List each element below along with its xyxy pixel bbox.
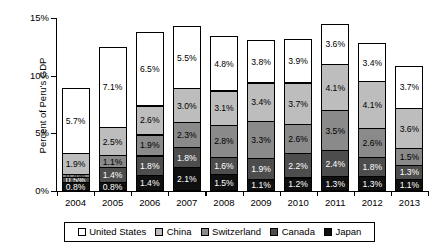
x-axis-tick-mark: [391, 191, 392, 196]
bar-2008[interactable]: 4.8%3.1%2.8%1.6%1.5%: [210, 36, 238, 190]
bar-value-label: 7.1%: [100, 83, 126, 92]
bar-value-label: 2.3%: [174, 131, 200, 140]
bar-2004[interactable]: 5.7%1.9%0.4%0.5%0.8%: [62, 88, 90, 190]
legend-item-ca[interactable]: Canada: [270, 227, 315, 237]
bar-segment-us-2012[interactable]: 3.4%: [358, 43, 386, 82]
bar-2011[interactable]: 3.6%4.1%3.5%2.4%1.3%: [321, 24, 349, 191]
legend-item-ch[interactable]: Switzerland: [201, 227, 262, 237]
bar-value-label: 5.5%: [174, 53, 200, 62]
y-axis-tick-label: 15%: [13, 13, 49, 23]
bar-value-label: 1.3%: [396, 168, 422, 177]
bar-value-label: 6.5%: [137, 65, 163, 74]
bar-segment-cn-2005[interactable]: 2.5%: [99, 127, 127, 156]
bar-value-label: 3.8%: [248, 57, 274, 66]
bar-segment-ca-2011[interactable]: 2.4%: [321, 150, 349, 178]
bar-segment-ch-2007[interactable]: 2.3%: [173, 122, 201, 148]
bar-segment-us-2004[interactable]: 5.7%: [62, 88, 90, 154]
bar-segment-ca-2007[interactable]: 1.8%: [173, 147, 201, 168]
legend-swatch-icon-jp: [324, 228, 332, 236]
bar-segment-ca-2006[interactable]: 1.8%: [136, 156, 164, 177]
bar-segment-ca-2012[interactable]: 1.8%: [358, 157, 386, 178]
bar-segment-ca-2008[interactable]: 1.6%: [210, 157, 238, 175]
bar-segment-ca-2010[interactable]: 2.2%: [284, 153, 312, 178]
y-axis-tick-label: 0%: [13, 186, 49, 196]
bar-segment-cn-2008[interactable]: 3.1%: [210, 91, 238, 127]
bar-2007[interactable]: 5.5%3.0%2.3%1.8%2.1%: [173, 26, 201, 191]
bar-segment-ca-2005[interactable]: 1.4%: [99, 167, 127, 183]
bar-segment-us-2007[interactable]: 5.5%: [173, 26, 201, 89]
bar-segment-jp-2009[interactable]: 1.1%: [247, 179, 275, 192]
bar-segment-ch-2008[interactable]: 2.8%: [210, 125, 238, 157]
bar-segment-jp-2013[interactable]: 1.1%: [395, 179, 423, 192]
x-axis-tick-mark: [205, 191, 206, 196]
bar-segment-jp-2011[interactable]: 1.3%: [321, 176, 349, 191]
bar-value-label: 1.1%: [248, 181, 274, 190]
y-axis-title: Percent of Peru's GDP: [37, 26, 48, 186]
bar-2010[interactable]: 3.9%3.7%2.6%2.2%1.2%: [284, 39, 312, 191]
bar-2006[interactable]: 6.5%2.6%1.9%1.8%1.4%: [136, 32, 164, 191]
x-axis-tick-mark: [280, 191, 281, 196]
bar-segment-ch-2006[interactable]: 1.9%: [136, 135, 164, 157]
bar-segment-cn-2013[interactable]: 3.6%: [395, 108, 423, 149]
legend-label: Switzerland: [212, 227, 261, 237]
x-axis-tick-mark: [94, 191, 95, 196]
bar-segment-us-2009[interactable]: 3.8%: [247, 40, 275, 84]
bar-segment-us-2013[interactable]: 3.7%: [395, 66, 423, 109]
bar-value-label: 2.6%: [359, 138, 385, 147]
bar-segment-us-2010[interactable]: 3.9%: [284, 39, 312, 84]
bar-segment-ch-2011[interactable]: 3.5%: [321, 110, 349, 150]
bar-value-label: 3.6%: [396, 124, 422, 133]
legend-swatch-icon-cn: [155, 228, 163, 236]
bar-value-label: 2.4%: [322, 159, 348, 168]
bar-value-label: 1.1%: [396, 181, 422, 190]
bar-segment-ca-2013[interactable]: 1.3%: [395, 165, 423, 180]
legend-swatch-icon-ch: [201, 228, 209, 236]
legend-item-us[interactable]: United States: [78, 227, 147, 237]
bar-segment-jp-2008[interactable]: 1.5%: [210, 174, 238, 191]
bar-segment-cn-2004[interactable]: 1.9%: [62, 153, 90, 175]
bar-segment-cn-2007[interactable]: 3.0%: [173, 88, 201, 123]
chart-legend: United StatesChinaSwitzerlandCanadaJapan: [64, 222, 375, 242]
bar-segment-cn-2011[interactable]: 4.1%: [321, 64, 349, 111]
bar-segment-ch-2012[interactable]: 2.6%: [358, 128, 386, 158]
bar-segment-ch-2005[interactable]: 1.1%: [99, 155, 127, 168]
legend-item-cn[interactable]: China: [155, 227, 191, 237]
bar-segment-us-2008[interactable]: 4.8%: [210, 36, 238, 91]
bar-segment-us-2011[interactable]: 3.6%: [321, 24, 349, 65]
bar-value-label: 1.5%: [396, 152, 422, 161]
bar-value-label: 2.1%: [174, 175, 200, 184]
bar-value-label: 1.2%: [285, 180, 311, 189]
bar-segment-cn-2006[interactable]: 2.6%: [136, 106, 164, 136]
x-axis-tick-mark: [131, 191, 132, 196]
bar-segment-ca-2009[interactable]: 1.9%: [247, 158, 275, 180]
bar-value-label: 1.8%: [359, 163, 385, 172]
bar-2012[interactable]: 3.4%4.1%2.6%1.8%1.3%: [358, 43, 386, 190]
bar-2009[interactable]: 3.8%3.4%3.3%1.9%1.1%: [247, 40, 275, 191]
bar-value-label: 3.7%: [396, 83, 422, 92]
bar-segment-us-2006[interactable]: 6.5%: [136, 32, 164, 107]
bar-segment-ch-2013[interactable]: 1.5%: [395, 148, 423, 165]
bar-value-label: 3.4%: [248, 98, 274, 107]
bar-segment-ch-2010[interactable]: 2.6%: [284, 124, 312, 154]
bar-segment-cn-2012[interactable]: 4.1%: [358, 81, 386, 128]
legend-label: United States: [89, 227, 146, 237]
bar-segment-us-2005[interactable]: 7.1%: [99, 47, 127, 129]
bar-segment-cn-2010[interactable]: 3.7%: [284, 83, 312, 126]
x-axis-tick-mark: [317, 191, 318, 196]
x-axis-tick-mark: [428, 191, 429, 196]
bar-value-label: 1.9%: [137, 141, 163, 150]
legend-item-jp[interactable]: Japan: [324, 227, 361, 237]
bar-segment-jp-2012[interactable]: 1.3%: [358, 176, 386, 191]
bar-segment-ch-2009[interactable]: 3.3%: [247, 121, 275, 159]
bar-segment-jp-2007[interactable]: 2.1%: [173, 167, 201, 191]
bar-segment-cn-2009[interactable]: 3.4%: [247, 83, 275, 122]
bar-segment-jp-2010[interactable]: 1.2%: [284, 178, 312, 192]
x-axis-tick-mark: [354, 191, 355, 196]
bar-segment-jp-2006[interactable]: 1.4%: [136, 175, 164, 191]
bar-2013[interactable]: 3.7%3.6%1.5%1.3%1.1%: [395, 66, 423, 190]
bar-value-label: 4.1%: [322, 83, 348, 92]
bar-value-label: 4.8%: [211, 59, 237, 68]
bar-value-label: 2.2%: [285, 161, 311, 170]
bar-2005[interactable]: 7.1%2.5%1.1%1.4%0.8%: [99, 47, 127, 191]
y-axis-tick-label: 10%: [13, 71, 49, 81]
